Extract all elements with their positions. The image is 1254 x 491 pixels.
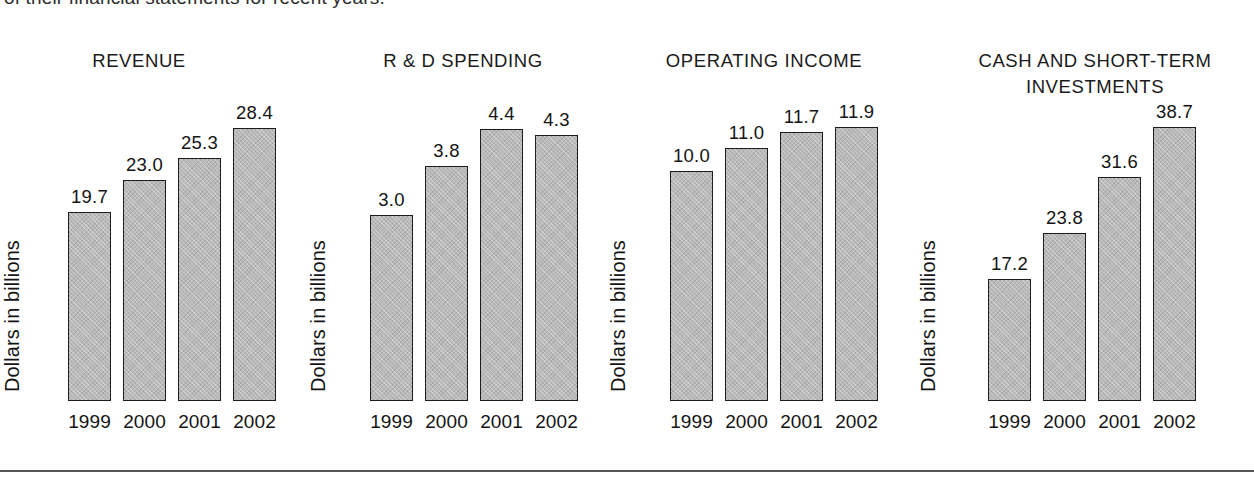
bar-slot: 25.3 [178, 79, 221, 401]
x-axis-labels: 1999 2000 2001 2002 [670, 412, 890, 436]
x-axis-tick-label: 2000 [117, 412, 172, 431]
bar-value-label: 23.0 [114, 156, 175, 175]
x-axis-tick-label: 1999 [62, 412, 117, 431]
bar[interactable] [988, 279, 1031, 401]
bar[interactable] [835, 127, 878, 401]
charts-row: REVENUE Dollars in billions 19.7 23.0 25… [0, 48, 1254, 448]
bar[interactable] [670, 171, 713, 401]
x-axis-tick-label: 2002 [1147, 412, 1202, 431]
bar-slot: 11.7 [780, 79, 823, 401]
bar-slot: 3.0 [370, 79, 413, 401]
x-axis-tick-label: 2002 [829, 412, 884, 431]
plot-area: 3.0 3.8 4.4 4.3 [370, 79, 590, 401]
bar-value-label: 38.7 [1144, 103, 1205, 122]
y-axis-label: Dollars in billions [918, 240, 938, 392]
x-axis-tick-label: 2001 [474, 412, 529, 431]
bar-value-label: 11.0 [716, 124, 777, 143]
bar-slot: 11.0 [725, 79, 768, 401]
bar[interactable] [68, 212, 111, 401]
bar[interactable] [425, 166, 468, 401]
x-axis-tick-label: 1999 [982, 412, 1037, 431]
bar[interactable] [1153, 127, 1196, 401]
plot-area: 10.0 11.0 11.7 11.9 [670, 79, 890, 401]
x-axis-labels: 1999 2000 2001 2002 [988, 412, 1208, 436]
bar-value-label: 28.4 [224, 104, 285, 123]
bar-slot: 4.3 [535, 79, 578, 401]
bar[interactable] [780, 132, 823, 401]
bar-value-label: 4.4 [471, 105, 532, 124]
x-axis-tick-label: 2000 [1037, 412, 1092, 431]
bar-value-label: 19.7 [59, 188, 120, 207]
x-axis-tick-label: 1999 [364, 412, 419, 431]
chart-title: REVENUE [0, 48, 316, 74]
bar[interactable] [535, 135, 578, 401]
x-axis-tick-label: 2001 [774, 412, 829, 431]
bar-value-label: 31.6 [1089, 153, 1150, 172]
x-axis-tick-label: 2000 [719, 412, 774, 431]
chart-panel-revenue: REVENUE Dollars in billions 19.7 23.0 25… [0, 48, 316, 448]
intro-text-clip: of their financial statements for recent… [0, 0, 1254, 20]
bar-slot: 28.4 [233, 79, 276, 401]
chart-title: OPERATING INCOME [616, 48, 916, 74]
y-axis-label: Dollars in billions [308, 240, 328, 392]
bar-slot: 23.0 [123, 79, 166, 401]
x-axis-tick-label: 2001 [172, 412, 227, 431]
bar[interactable] [1043, 233, 1086, 401]
bar-value-label: 23.8 [1034, 209, 1095, 228]
bar-value-label: 4.3 [526, 111, 587, 130]
chart-panel-cash-and-short-term-investments: CASH AND SHORT-TERM INVESTMENTS Dollars … [916, 48, 1254, 448]
plot-area: 19.7 23.0 25.3 28.4 [68, 79, 288, 401]
bar-slot: 23.8 [1043, 79, 1086, 401]
bar-slot: 38.7 [1153, 79, 1196, 401]
x-axis-labels: 1999 2000 2001 2002 [370, 412, 590, 436]
bar-value-label: 3.8 [416, 142, 477, 161]
bar-value-label: 25.3 [169, 134, 230, 153]
page-bottom-rule [0, 470, 1254, 472]
x-axis-tick-label: 2001 [1092, 412, 1147, 431]
bar-slot: 11.9 [835, 79, 878, 401]
x-axis-labels: 1999 2000 2001 2002 [68, 412, 288, 436]
bar-slot: 17.2 [988, 79, 1031, 401]
bar[interactable] [480, 129, 523, 401]
intro-paragraph: of their financial statements for recent… [4, 0, 385, 9]
x-axis-tick-label: 2002 [529, 412, 584, 431]
bar-value-label: 17.2 [979, 255, 1040, 274]
bar[interactable] [1098, 177, 1141, 401]
bar[interactable] [725, 148, 768, 401]
x-axis-tick-label: 2000 [419, 412, 474, 431]
bar-value-label: 3.0 [361, 191, 422, 210]
bar-slot: 31.6 [1098, 79, 1141, 401]
plot-area: 17.2 23.8 31.6 38.7 [988, 79, 1208, 401]
bar[interactable] [370, 215, 413, 401]
bar[interactable] [123, 180, 166, 401]
chart-panel-operating-income: OPERATING INCOME Dollars in billions 10.… [616, 48, 916, 448]
bar-value-label: 11.7 [771, 108, 832, 127]
bar-value-label: 10.0 [661, 147, 722, 166]
x-axis-tick-label: 1999 [664, 412, 719, 431]
bar-value-label: 11.9 [826, 103, 887, 122]
y-axis-label: Dollars in billions [608, 240, 628, 392]
bar-slot: 10.0 [670, 79, 713, 401]
bar-slot: 3.8 [425, 79, 468, 401]
bar[interactable] [233, 128, 276, 401]
chart-title: R & D SPENDING [316, 48, 616, 74]
y-axis-label: Dollars in billions [2, 240, 22, 392]
bar[interactable] [178, 158, 221, 401]
chart-panel-rd-spending: R & D SPENDING Dollars in billions 3.0 3… [316, 48, 616, 448]
bar-slot: 4.4 [480, 79, 523, 401]
bar-slot: 19.7 [68, 79, 111, 401]
x-axis-tick-label: 2002 [227, 412, 282, 431]
